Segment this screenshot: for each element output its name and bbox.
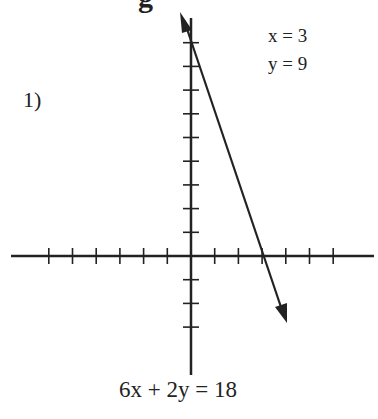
equation-label: 6x + 2y = 18: [119, 377, 237, 403]
plotted-line: [184, 20, 284, 316]
arrowhead-down-icon: [275, 303, 287, 323]
coordinate-graph: [0, 0, 378, 419]
